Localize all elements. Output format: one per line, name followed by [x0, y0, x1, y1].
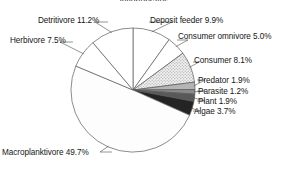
slice-label-consumer: Consumer 8.1% [194, 56, 252, 65]
slice-label-deposit-feeder: Deposit feeder 9.9% [150, 16, 223, 25]
slice-label-parasite: Parasite 1.2% [198, 87, 248, 96]
slice-label-plant: Plant 1.9% [198, 97, 237, 106]
slice-label-consumer-omnivore: Consumer omnivore 5.0% [178, 32, 272, 41]
slice-label-detritivore: Detritivore 11.2% [38, 16, 99, 25]
slice-label-herbivore: Herbivore 7.5% [10, 36, 66, 45]
slice-label-macroplanktivore: Macroplanktivore 49.7% [2, 148, 89, 157]
slice-label-algae: Algae 3.7% [194, 107, 235, 116]
pie-chart [0, 0, 288, 170]
slice-label-predator: Predator 1.9% [198, 76, 250, 85]
chart-canvas: Invertebrates Detritivore 11.2% Herbivor… [0, 0, 288, 170]
